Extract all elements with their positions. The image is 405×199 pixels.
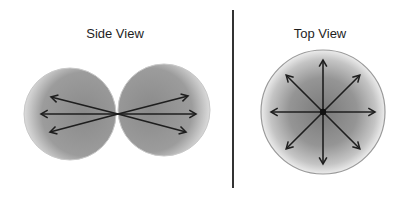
side-view-lobes: [24, 64, 210, 160]
side-view-title: Side View: [86, 26, 144, 41]
top-view-title: Top View: [294, 26, 347, 41]
source-point-icon: [320, 109, 326, 115]
